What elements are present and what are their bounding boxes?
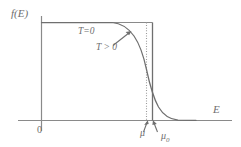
x-axis-label: E — [213, 104, 220, 115]
origin-label: 0 — [37, 125, 42, 135]
y-axis-label: f(E) — [11, 8, 28, 19]
mu0-arrow — [152, 120, 157, 132]
t-zero-annotation: T=0 — [78, 27, 94, 37]
t-positive-curve — [42, 23, 197, 121]
mu-tick-label: μ — [140, 128, 145, 138]
t-positive-annotation: T > 0 — [96, 43, 117, 53]
mu0-tick-label: μ0 — [161, 131, 170, 144]
fermi-dirac-distribution-figure: f(E) E 0 T=0 T > 0 μ μ0 — [0, 0, 241, 147]
mu0-subscript: 0 — [166, 136, 170, 144]
